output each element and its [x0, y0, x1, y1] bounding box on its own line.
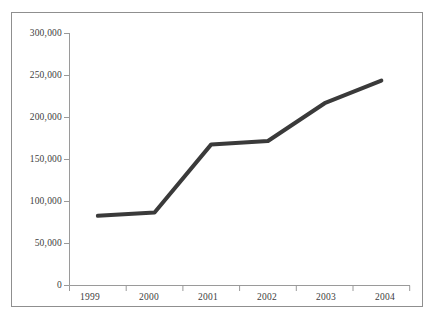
x-axis-ticks — [70, 286, 410, 292]
line-chart-figure: 300,000 250,000 200,000 150,000 100,000 … — [0, 0, 435, 319]
y-axis-ticks — [64, 34, 70, 286]
data-series-line — [98, 81, 382, 216]
plot-area — [0, 0, 435, 319]
